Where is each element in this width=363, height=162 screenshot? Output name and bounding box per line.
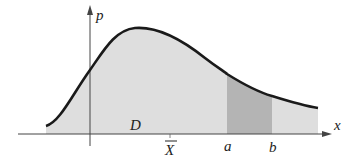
x-axis-arrow-icon (322, 131, 332, 137)
region-label: D (129, 117, 141, 133)
interval-start-label: a (224, 138, 232, 154)
x-axis-label: x (333, 117, 341, 133)
shaded-interval-a-b (227, 74, 272, 134)
shaded-region-d (46, 28, 318, 134)
y-axis-label: p (95, 7, 104, 23)
y-axis-arrow-icon (87, 5, 93, 15)
mean-label: X (164, 142, 175, 158)
density-diagram: p x D X a b (0, 0, 363, 162)
interval-end-label: b (269, 139, 277, 155)
